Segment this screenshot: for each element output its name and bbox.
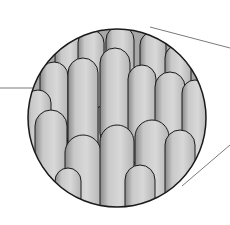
magnified-cells-diagram: [0, 0, 230, 225]
cell-cluster: [20, 20, 220, 225]
